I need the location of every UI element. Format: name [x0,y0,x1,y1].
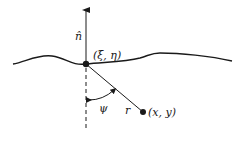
normal-label: n̂ [75,30,82,43]
distance-label: r [125,104,131,117]
diagram-canvas: n̂ (ξ, η) ψ r (x, y) [0,0,244,141]
field-point-label: (x, y) [148,106,176,119]
source-point-label: (ξ, η) [93,49,121,62]
field-point-dot [140,109,146,115]
source-point-dot [83,61,89,67]
distance-line-r [86,64,143,112]
angle-arc-psi [89,90,114,100]
angle-label: ψ [99,102,108,115]
boundary-curve [13,53,232,64]
